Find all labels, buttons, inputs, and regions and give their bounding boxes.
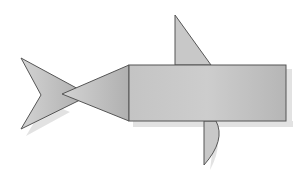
body-shape (129, 65, 286, 121)
top-fin-shape (175, 15, 211, 65)
fish-diagram (0, 0, 307, 179)
head-shape (62, 65, 129, 121)
